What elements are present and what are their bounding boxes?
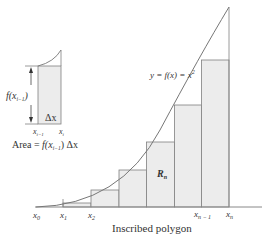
diagram-title: Inscribed polygon — [112, 222, 192, 234]
arrow-down-icon — [29, 117, 33, 123]
rectangle-5 — [175, 105, 202, 207]
rectangle-last — [202, 60, 230, 207]
inset-single-rectangle: f(xi−1) Δx xi−1 xi Area = f(xi−1) Δx — [6, 50, 78, 151]
riemann-sum-diagram: y = f(x) = x2 Rn x0 x1 x2 xn − 1 xn Insc… — [0, 0, 271, 241]
arrow-up-icon — [29, 67, 33, 73]
inset-left-label: xi−1 — [32, 127, 44, 137]
curve-label: y = f(x) = x2 — [149, 69, 195, 80]
inset-width-label: Δx — [45, 112, 56, 123]
rectangle-3 — [119, 170, 147, 207]
inset-right-label: xi — [58, 127, 65, 137]
x0-label: x0 — [32, 210, 40, 221]
xn-label: xn — [225, 209, 233, 220]
area-formula: Area = f(xi−1) Δx — [12, 139, 78, 151]
x2-label: x2 — [87, 210, 95, 221]
xn-minus-1-label: xn − 1 — [193, 209, 211, 220]
rectangle-2 — [91, 190, 119, 207]
x1-label: x1 — [59, 210, 67, 221]
inset-height-label: f(xi−1) — [6, 90, 29, 102]
inscribed-rectangles — [63, 60, 229, 207]
inset-curve — [38, 50, 61, 66]
